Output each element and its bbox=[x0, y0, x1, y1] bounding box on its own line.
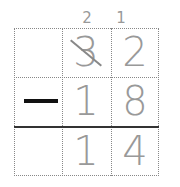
result-ones-digit: 4 bbox=[111, 127, 159, 176]
minus-sign bbox=[24, 99, 58, 103]
carry-ones: 1 bbox=[111, 11, 131, 26]
bottom-ones-digit: 8 bbox=[111, 77, 159, 126]
top-ones-digit: 2 bbox=[111, 28, 159, 77]
grid-border-left bbox=[14, 28, 15, 176]
result-tens-digit: 1 bbox=[62, 127, 110, 176]
carry-tens: 2 bbox=[77, 11, 97, 26]
subtraction-grid: 3 2 1 8 1 4 bbox=[14, 28, 159, 176]
bottom-tens-digit: 1 bbox=[62, 77, 110, 126]
